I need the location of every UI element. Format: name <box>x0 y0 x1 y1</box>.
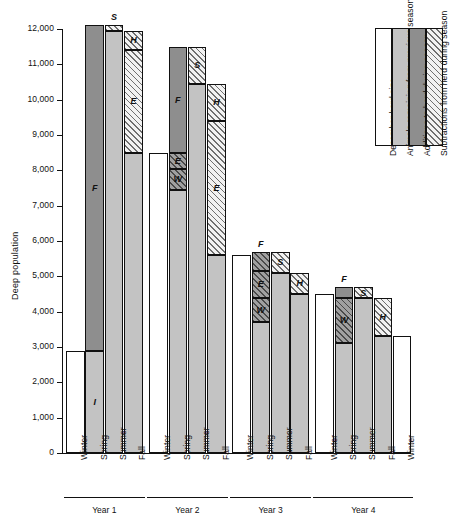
segment-label: E <box>125 96 142 106</box>
y-tick-label: 2,000 <box>8 377 54 386</box>
bar-segment: S <box>105 25 124 30</box>
bar: S <box>271 252 290 453</box>
bar-segment <box>207 255 226 453</box>
bar-segment: H <box>290 273 309 294</box>
segment-label: S <box>272 257 289 267</box>
x-category-label: Winter <box>245 435 255 460</box>
bar-segment: H <box>374 298 393 337</box>
x-group-rule <box>64 497 145 498</box>
segment-label: H <box>375 312 392 322</box>
segment-label-above: S <box>105 12 124 22</box>
bar-segment <box>149 153 168 453</box>
bar-segment: F <box>335 287 354 298</box>
segment-label: S <box>189 60 206 70</box>
x-category-label: Winter <box>79 435 89 460</box>
bar-segment: S <box>188 47 207 84</box>
x-group-rule <box>147 497 228 498</box>
bar-segment: E <box>252 271 271 298</box>
bar-segment <box>124 153 143 453</box>
x-group-label: Year 2 <box>143 505 232 515</box>
x-category-label: Summer <box>118 427 128 460</box>
bar: S <box>105 25 124 453</box>
bar: WEF <box>169 47 188 453</box>
x-group-label: Year 4 <box>309 505 417 515</box>
y-tick-label: 10,000 <box>8 95 54 104</box>
segment-label: E <box>170 156 187 166</box>
segment-label-above: F <box>335 274 354 284</box>
x-group-rule <box>313 497 413 498</box>
x-category-label: Spring <box>265 435 275 460</box>
y-tick-label: 12,000 <box>8 24 54 33</box>
x-category-label: Fall <box>137 446 147 460</box>
segment-label: H <box>291 278 308 288</box>
y-tick-label: 3,000 <box>8 342 54 351</box>
segment-label: W <box>336 315 353 325</box>
y-tick-label: 0 <box>8 448 54 457</box>
segment-label: F <box>86 183 103 193</box>
y-tick-label: 9,000 <box>8 130 54 139</box>
bar-segment: F <box>169 47 188 153</box>
bar-segment: E <box>169 153 188 169</box>
x-category-label: Spring <box>99 435 109 460</box>
segment-label-above: F <box>252 239 271 249</box>
segment-label: H <box>125 35 142 45</box>
bar: EH <box>124 31 143 453</box>
x-category-label: Fall <box>387 446 397 460</box>
x-category-label: Winter <box>406 435 416 460</box>
y-tick-label: 11,000 <box>8 59 54 68</box>
bar-segment: S <box>354 287 373 298</box>
bar <box>149 153 168 453</box>
x-category-label: Summer <box>201 427 211 460</box>
y-tick-label: 4,000 <box>8 307 54 316</box>
bar: H <box>290 273 309 453</box>
bar: WF <box>335 287 354 453</box>
x-group-rule <box>230 497 311 498</box>
x-category-label: Summer <box>367 427 377 460</box>
bar-segment <box>169 190 188 453</box>
bar-segment <box>105 31 124 453</box>
bar: WEF <box>252 252 271 453</box>
segment-label: E <box>253 279 270 289</box>
bar <box>232 255 251 453</box>
segment-label: S <box>355 288 372 298</box>
x-group-label: Year 1 <box>60 505 149 515</box>
x-axis-line <box>62 453 411 454</box>
y-axis-line <box>62 29 63 454</box>
x-category-label: Spring <box>348 435 358 460</box>
x-category-label: Winter <box>329 435 339 460</box>
y-tick-label: 7,000 <box>8 201 54 210</box>
bar-segment <box>315 294 334 453</box>
x-category-label: Winter <box>162 435 172 460</box>
segment-label: E <box>208 183 225 193</box>
bar-segment <box>232 255 251 453</box>
x-category-label: Fall <box>221 446 231 460</box>
bar-segment: H <box>207 84 226 121</box>
x-category-label: Summer <box>284 427 294 460</box>
segment-label: H <box>208 97 225 107</box>
bar: EH <box>207 84 226 453</box>
y-tick-label: 6,000 <box>8 236 54 245</box>
segment-label: F <box>170 95 187 105</box>
bar-segment: W <box>335 298 354 344</box>
bar-segment: W <box>169 169 188 190</box>
bar-segment: E <box>207 121 226 255</box>
y-tick-label: 5,000 <box>8 271 54 280</box>
bar: S <box>188 47 207 453</box>
segment-label: W <box>170 174 187 184</box>
deer-population-chart: Deep population 01,0002,0003,0004,0005,0… <box>0 0 456 518</box>
y-tick-label: 8,000 <box>8 165 54 174</box>
bar-segment: H <box>124 31 143 50</box>
x-category-label: Fall <box>304 446 314 460</box>
bar-segment: W <box>252 298 271 323</box>
bar <box>315 294 334 453</box>
bar-segment <box>252 322 271 453</box>
bar-segment: F <box>85 25 104 350</box>
legend-label: Subtractions from herd during season <box>439 11 449 156</box>
bar-segment <box>188 84 207 453</box>
y-tick-label: 1,000 <box>8 413 54 422</box>
x-group-label: Year 3 <box>226 505 315 515</box>
bar: IF <box>85 25 104 453</box>
bar-segment: F <box>252 252 271 271</box>
bar-segment <box>271 273 290 453</box>
x-category-label: Spring <box>182 435 192 460</box>
